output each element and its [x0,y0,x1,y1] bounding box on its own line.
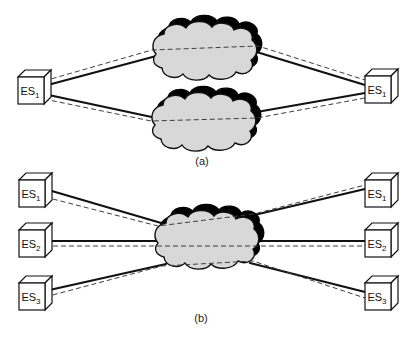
section-a: ES1 ES1 (a) [18,15,398,167]
section-a-caption: (a) [195,155,208,167]
es-node-a-right-1: ES1 [365,69,398,103]
physical-link [251,93,365,113]
physical-link [44,94,161,119]
cloud-body [155,210,259,269]
es-node-b-left-1: ES1 [19,173,52,207]
cloud-body [152,92,256,151]
es-node-b-right-2: ES2 [365,223,398,257]
physical-link [250,189,365,216]
es-node-b-left-3: ES3 [19,276,52,310]
es-node-b-right-3: ES3 [365,276,398,310]
physical-link [45,264,166,291]
internetworking-diagram: ES1 ES1 (a) [0,0,413,340]
subnetwork-cloud [155,204,264,269]
section-b-caption: (b) [194,312,207,324]
physical-link [44,55,160,86]
figure-canvas: ES1 ES1 (a) [0,0,413,340]
subnetwork-cloud [153,15,262,80]
es-node-b-left-2: ES2 [19,223,52,257]
physical-link [45,189,168,225]
physical-link [250,263,365,292]
cloud-body [153,21,257,80]
es-node-b-right-1: ES1 [365,173,398,207]
physical-link [250,50,365,85]
es-node-a-left-1: ES1 [18,70,51,104]
section-b: ES1 ES2 ES3 ES1 ES2 ES3 [19,173,398,324]
